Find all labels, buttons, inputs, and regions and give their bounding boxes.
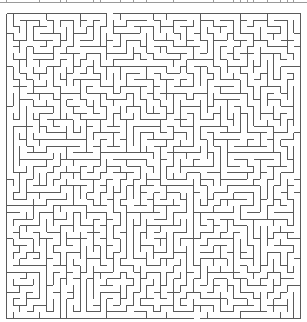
maze [0,0,307,322]
maze-walls [7,14,301,319]
top-partial-maze-strip [0,0,307,3]
